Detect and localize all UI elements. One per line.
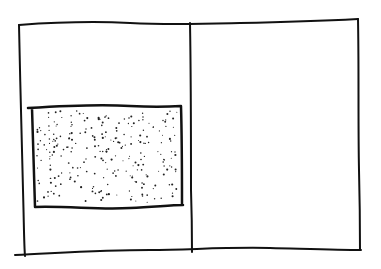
- outer-frame-right: [358, 19, 360, 250]
- outer-frame-top: [19, 19, 358, 25]
- outer-frame-bottom: [15, 248, 361, 255]
- wireframe-sketch: [0, 0, 381, 269]
- panel-divider: [190, 23, 192, 252]
- stippled-block: [28, 105, 183, 208]
- outer-frame-left: [19, 25, 25, 256]
